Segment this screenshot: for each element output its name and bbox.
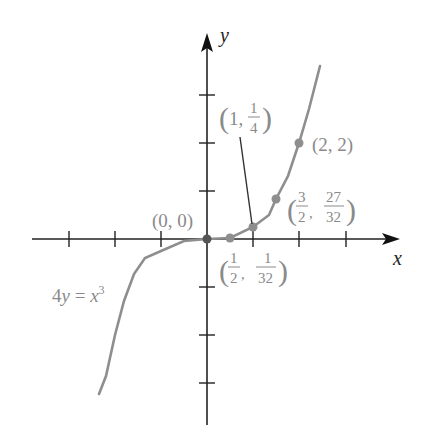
label-origin: (0, 0) <box>152 210 193 232</box>
svg-text:(: ( <box>219 254 229 288</box>
svg-text:4: 4 <box>250 120 258 136</box>
equation-label: 4y = x3 <box>52 283 105 306</box>
svg-text:): ) <box>346 193 356 227</box>
svg-text:): ) <box>262 101 272 135</box>
label-one-quarter: ( 1, 1 4 ) <box>219 100 272 136</box>
svg-text:2: 2 <box>298 209 306 225</box>
svg-text:2: 2 <box>230 270 238 286</box>
point-half <box>226 234 235 243</box>
point-two <box>295 139 304 148</box>
graph-canvas: y x 4y = x3 (0, 0) (2, 2) ( 1, 1 4 ) ( 3… <box>0 0 433 441</box>
label-two-two: (2, 2) <box>312 134 353 156</box>
point-origin <box>203 235 212 244</box>
svg-text:(: ( <box>219 101 229 135</box>
label-half: ( 1 2 , 1 32 ) <box>219 250 288 288</box>
svg-text:1,: 1, <box>229 108 243 129</box>
label-three-halves: ( 3 2 , 27 32 ) <box>287 189 356 227</box>
svg-text:32: 32 <box>258 270 273 286</box>
svg-text:3: 3 <box>298 189 306 205</box>
svg-text:1: 1 <box>250 100 258 116</box>
svg-text:1: 1 <box>264 250 272 266</box>
point-one <box>249 223 258 232</box>
cubic-curve <box>99 66 320 394</box>
svg-text:,: , <box>241 266 245 282</box>
svg-text:1: 1 <box>230 250 238 266</box>
marked-points <box>203 139 304 244</box>
y-axis-label: y <box>218 24 229 47</box>
x-axis-label: x <box>392 247 402 269</box>
svg-text:): ) <box>278 254 288 288</box>
leader-line <box>240 137 252 224</box>
svg-text:(: ( <box>287 193 297 227</box>
svg-text:27: 27 <box>326 189 342 205</box>
point-three-halves <box>272 195 281 204</box>
cubic-graph-figure: y x 4y = x3 (0, 0) (2, 2) ( 1, 1 4 ) ( 3… <box>0 0 433 441</box>
svg-text:,: , <box>309 205 313 221</box>
svg-text:32: 32 <box>326 209 341 225</box>
